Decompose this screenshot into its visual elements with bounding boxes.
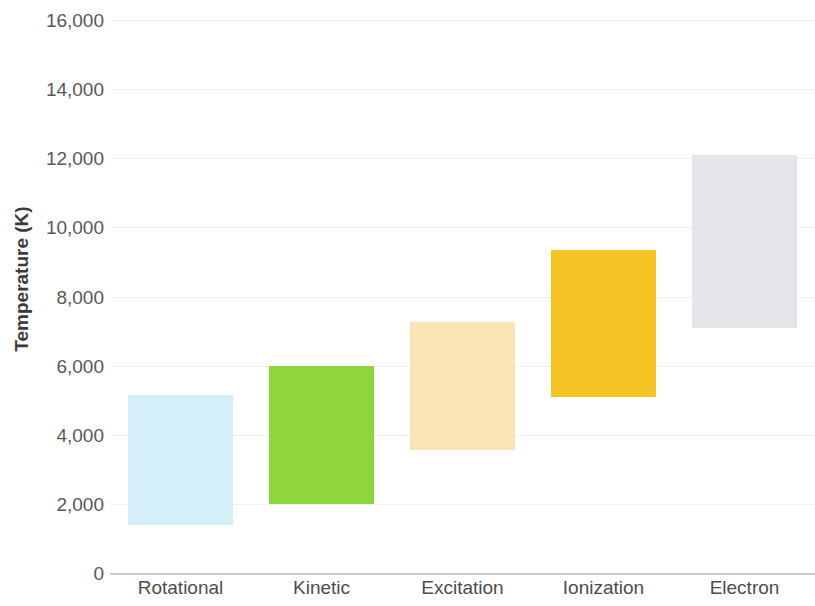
x-axis-tick-label-rotational: Rotational (110, 578, 251, 597)
gridline (110, 20, 815, 21)
y-axis-tick-label: 8,000 (20, 288, 104, 307)
bar-electron[interactable] (692, 155, 797, 328)
y-axis-tick-label: 2,000 (20, 495, 104, 514)
y-axis-tick-label: 14,000 (20, 80, 104, 99)
x-axis-tick-label-excitation: Excitation (392, 578, 533, 597)
y-axis-tick-label: 10,000 (20, 218, 104, 237)
x-axis-tick-label-kinetic: Kinetic (251, 578, 392, 597)
bar-ionization[interactable] (551, 250, 656, 397)
bar-kinetic[interactable] (269, 366, 374, 504)
x-axis-tick-label-ionization: Ionization (533, 578, 674, 597)
bar-excitation[interactable] (410, 322, 515, 450)
y-axis-tick-labels: 02,0004,0006,0008,00010,00012,00014,0001… (0, 0, 104, 606)
y-axis-tick-label: 16,000 (20, 11, 104, 30)
y-axis-tick-label: 12,000 (20, 149, 104, 168)
x-axis-line (110, 573, 815, 575)
plot-area: RotationalKineticExcitationIonizationEle… (110, 0, 815, 606)
y-axis-tick-label: 6,000 (20, 357, 104, 376)
gridline (110, 89, 815, 90)
y-axis-tick-label: 0 (20, 564, 104, 583)
y-axis-tick-label: 4,000 (20, 426, 104, 445)
bar-rotational[interactable] (128, 395, 233, 525)
bar-chart: Temperature (K) 02,0004,0006,0008,00010,… (0, 0, 815, 606)
x-axis-tick-label-electron: Electron (674, 578, 815, 597)
